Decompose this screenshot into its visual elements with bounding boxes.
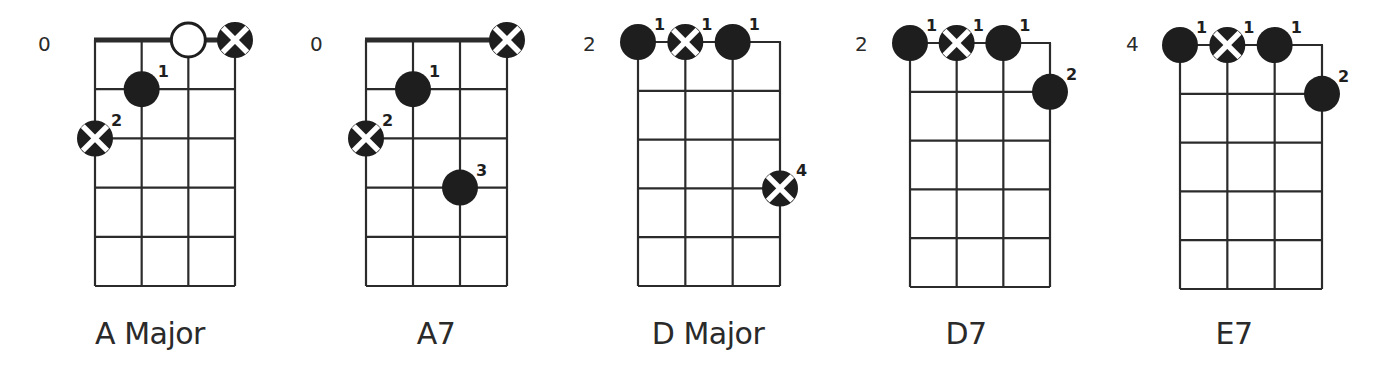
finger-dot-icon xyxy=(715,24,751,60)
chord-diagram-a-major: 12 xyxy=(78,23,252,286)
cross-marker-icon xyxy=(668,25,702,59)
cross-marker-icon xyxy=(78,121,112,155)
finger-dot-icon xyxy=(1304,76,1340,112)
finger-dot-icon xyxy=(124,71,160,107)
finger-number: 1 xyxy=(429,62,440,81)
finger-number: 1 xyxy=(1291,18,1302,37)
finger-dot-icon xyxy=(1257,27,1293,63)
finger-number: 1 xyxy=(926,16,937,35)
chord-diagram-d7: 1112 xyxy=(892,16,1077,287)
finger-dot-icon xyxy=(1032,74,1068,110)
finger-dot-icon xyxy=(892,25,928,61)
finger-number: 2 xyxy=(382,111,393,130)
finger-dot-icon xyxy=(620,24,656,60)
cross-marker-icon xyxy=(490,23,524,57)
finger-number: 1 xyxy=(1196,18,1207,37)
finger-number: 1 xyxy=(158,62,169,81)
chord-chart: 12123111411121112 0A Major0A72D Major2D7… xyxy=(0,0,1387,375)
chord-diagram-d-major: 1114 xyxy=(620,15,807,286)
finger-number: 2 xyxy=(1066,65,1077,84)
cross-marker-icon xyxy=(940,26,974,60)
finger-dot-icon xyxy=(442,170,478,206)
starting-fret-label: 4 xyxy=(1126,32,1139,56)
chord-diagram-e7: 1112 xyxy=(1162,18,1349,289)
cross-marker-icon xyxy=(763,171,797,205)
finger-number: 1 xyxy=(973,16,984,35)
finger-number: 4 xyxy=(796,161,807,180)
cross-marker-icon xyxy=(349,121,383,155)
finger-number: 2 xyxy=(1338,67,1349,86)
finger-number: 1 xyxy=(701,15,712,34)
chord-name: A Major xyxy=(95,316,205,351)
chord-diagram-a7: 123 xyxy=(349,23,524,286)
starting-fret-label: 0 xyxy=(310,32,323,56)
chord-name: D Major xyxy=(652,316,764,351)
cross-marker-icon xyxy=(218,23,252,57)
starting-fret-label: 2 xyxy=(855,32,868,56)
finger-number: 1 xyxy=(1019,16,1030,35)
open-string-circle-icon xyxy=(171,23,205,57)
starting-fret-label: 2 xyxy=(583,32,596,56)
starting-fret-label: 0 xyxy=(38,32,51,56)
finger-number: 1 xyxy=(654,15,665,34)
cross-marker-icon xyxy=(1210,28,1244,62)
finger-dot-icon xyxy=(395,71,431,107)
chord-name: A7 xyxy=(417,316,456,351)
finger-number: 2 xyxy=(111,111,122,130)
finger-number: 1 xyxy=(1243,18,1254,37)
chord-name: D7 xyxy=(945,316,986,351)
finger-number: 1 xyxy=(749,15,760,34)
chord-name: E7 xyxy=(1215,316,1252,351)
finger-dot-icon xyxy=(985,25,1021,61)
finger-number: 3 xyxy=(476,161,487,180)
finger-dot-icon xyxy=(1162,27,1198,63)
